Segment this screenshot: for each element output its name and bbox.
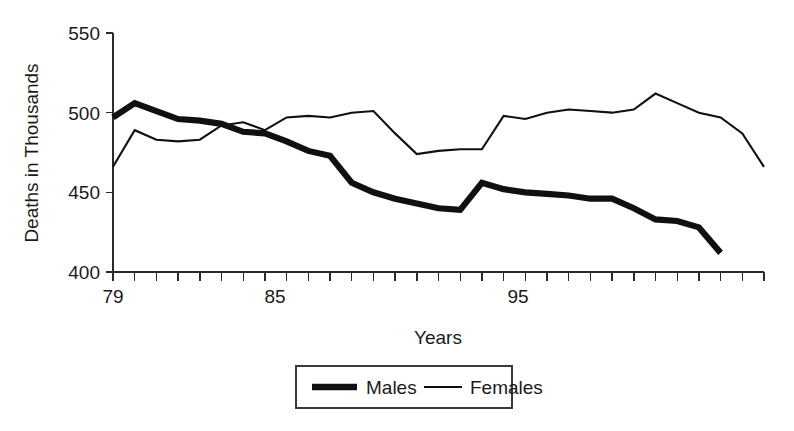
- chart-legend: Males Females: [296, 366, 543, 408]
- x-tick-label-79: 79: [102, 286, 123, 307]
- y-tick-label-500: 500: [68, 103, 100, 124]
- chart-figure: 550 500 450 400 79 85 95 Years Deaths in…: [0, 0, 794, 431]
- y-axis-ticks: [106, 33, 113, 272]
- x-axis-ticks: [113, 272, 764, 281]
- x-axis-title: Years: [414, 327, 462, 348]
- series-line-females: [113, 94, 764, 167]
- x-tick-label-95: 95: [507, 286, 528, 307]
- x-tick-label-85: 85: [264, 286, 285, 307]
- series-line-males: [113, 103, 721, 253]
- x-axis-tick-labels: 79 85 95: [102, 286, 528, 307]
- legend-label-males: Males: [366, 377, 417, 398]
- y-tick-label-550: 550: [68, 23, 100, 44]
- y-axis-tick-labels: 550 500 450 400: [68, 23, 100, 283]
- y-tick-label-450: 450: [68, 182, 100, 203]
- y-axis-title: Deaths in Thousands: [21, 63, 42, 242]
- y-tick-label-400: 400: [68, 262, 100, 283]
- legend-label-females: Females: [470, 377, 543, 398]
- line-chart-svg: 550 500 450 400 79 85 95 Years Deaths in…: [0, 0, 794, 431]
